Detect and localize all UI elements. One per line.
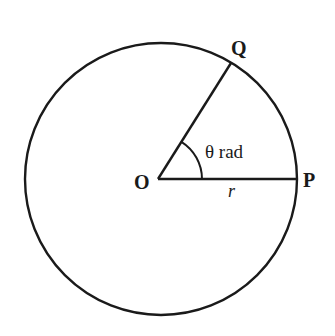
label-radius: r	[228, 181, 236, 201]
label-q: Q	[231, 37, 247, 59]
label-o: O	[134, 171, 150, 193]
label-angle: θ rad	[205, 141, 244, 162]
circle-diagram: O P Q θ rad r	[0, 0, 335, 336]
label-p: P	[303, 169, 315, 191]
angle-arc	[181, 142, 202, 179]
